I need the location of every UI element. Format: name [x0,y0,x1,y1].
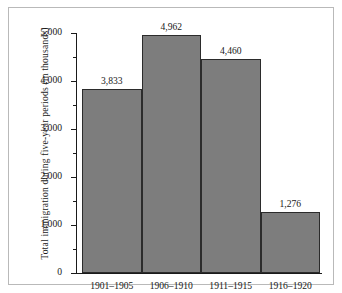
y-tick-minor [73,201,76,202]
y-tick-major [71,33,76,34]
bar [82,89,142,273]
bar-value-label: 1,276 [261,198,321,209]
bar [142,35,202,273]
y-tick-label: 4,000 [40,74,62,85]
plot-area: 01,0002,0003,0004,0005,000 3,8334,9624,4… [76,28,322,274]
y-tick-label: 3,000 [40,122,62,133]
bar [261,212,321,273]
y-tick-label: 0 [57,266,62,277]
bar-value-label: 3,833 [82,75,142,86]
x-axis-line [76,273,322,274]
y-tick-major [71,273,76,274]
chart-frame: Total immigration during five-year perio… [8,7,334,285]
y-tick-label: 2,000 [40,170,62,181]
bar-value-label: 4,460 [201,45,261,56]
y-tick-minor [73,153,76,154]
y-tick-minor [73,249,76,250]
y-tick-minor [73,57,76,58]
chart-figure: Total immigration during five-year perio… [0,0,342,293]
y-tick-major [71,177,76,178]
bar [201,59,261,273]
y-axis-line [76,33,77,273]
y-tick-label: 5,000 [40,26,62,37]
y-axis-title: Total immigration during five-year perio… [39,19,50,269]
y-tick-major [71,81,76,82]
y-tick-major [71,225,76,226]
bar-value-label: 4,962 [142,21,202,32]
y-tick-label: 1,000 [40,218,62,229]
y-tick-minor [73,105,76,106]
x-tick-label: 1916–1920 [255,280,327,291]
y-tick-major [71,129,76,130]
